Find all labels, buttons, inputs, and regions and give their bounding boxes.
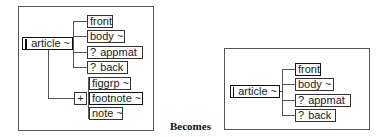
before-panel: [18, 6, 154, 131]
node-suffix: ~: [64, 38, 70, 49]
after-node-back[interactable]: ?back: [295, 109, 336, 122]
node-suffix: ~: [135, 93, 141, 104]
after-node-front[interactable]: front: [295, 63, 321, 76]
optional-marker: ?: [298, 110, 304, 121]
node-suffix: ~: [116, 108, 122, 119]
node-suffix: ~: [123, 78, 129, 89]
after-connector-trunk: [282, 69, 283, 116]
after-connector-front: [282, 69, 295, 70]
node-label: article: [31, 38, 60, 49]
before-connector-front: [73, 21, 87, 22]
node-suffix: ~: [325, 79, 331, 90]
after-node-appmat[interactable]: ?appmat: [295, 94, 351, 107]
node-suffix: ~: [271, 86, 277, 97]
becomes-caption: Becomes: [170, 120, 211, 132]
after-connector-back: [282, 115, 295, 116]
before-node-back[interactable]: ?back: [87, 61, 128, 74]
optional-marker: ?: [90, 47, 96, 58]
selection-bar-icon: [25, 39, 27, 49]
before-node-footnote[interactable]: footnote ~: [89, 92, 143, 105]
node-label: body: [90, 31, 114, 42]
optional-marker: ?: [298, 95, 304, 106]
optional-marker: ?: [90, 62, 96, 73]
node-label: appmat: [100, 47, 137, 58]
after-node-body[interactable]: body ~: [295, 78, 334, 91]
before-node-appmat[interactable]: ?appmat: [87, 46, 143, 59]
after-connector-appmat: [282, 100, 295, 101]
before-connector-group-h: [48, 98, 74, 99]
node-label: front: [298, 64, 320, 75]
before-connector-trunk: [73, 21, 74, 68]
before-node-note[interactable]: note ~: [89, 107, 123, 120]
before-root-node[interactable]: article ~: [22, 37, 73, 50]
node-label: appmat: [308, 95, 345, 106]
after-root-node[interactable]: article ~: [230, 85, 280, 98]
expand-toggle-icon[interactable]: +: [74, 92, 87, 105]
node-label: body: [298, 79, 322, 90]
before-connector-body: [73, 36, 87, 37]
before-connector-appmat: [73, 52, 87, 53]
node-label: footnote: [92, 93, 132, 104]
after-connector-body: [282, 84, 295, 85]
selection-bar-icon: [233, 87, 234, 97]
node-label: article: [238, 86, 267, 97]
before-node-body[interactable]: body ~: [87, 30, 125, 43]
node-label: back: [100, 62, 123, 73]
before-node-front[interactable]: front: [87, 15, 113, 28]
before-connector-group-v: [48, 50, 49, 98]
before-connector-back: [73, 67, 87, 68]
before-node-figgrp[interactable]: figgrp ~: [89, 77, 131, 90]
node-label: back: [308, 110, 331, 121]
node-suffix: ~: [117, 31, 123, 42]
node-label: figgrp: [92, 78, 120, 89]
node-label: note: [92, 108, 113, 119]
node-label: front: [90, 16, 112, 27]
